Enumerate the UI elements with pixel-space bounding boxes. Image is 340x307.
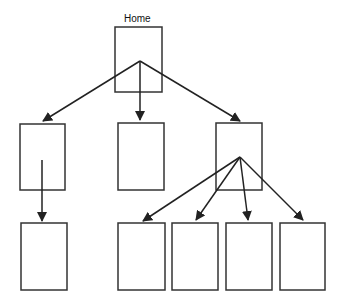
node-level2-e: [280, 223, 325, 290]
node-level2-c: [172, 223, 218, 290]
node-level2-a: [21, 223, 67, 290]
node-level2-b: [118, 223, 165, 290]
node-level2-d: [226, 223, 272, 290]
node-home: [115, 27, 162, 92]
node-level1-c: [216, 123, 262, 190]
site-hierarchy-diagram: [0, 0, 340, 307]
node-level1-b: [118, 123, 164, 190]
